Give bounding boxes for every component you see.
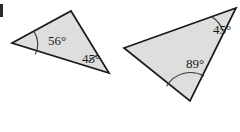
figure-canvas: 56° 45° 45° 89° <box>0 0 240 132</box>
geometry-figure: 56° 45° 45° 89° <box>0 0 240 132</box>
figure-label-fragment-icon <box>0 4 3 17</box>
left-triangle-angle-45-label: 45° <box>82 51 100 66</box>
right-triangle-angle-45-label: 45° <box>213 22 231 37</box>
right-triangle-angle-89-label: 89° <box>186 56 204 71</box>
left-triangle-angle-56-label: 56° <box>48 33 66 48</box>
